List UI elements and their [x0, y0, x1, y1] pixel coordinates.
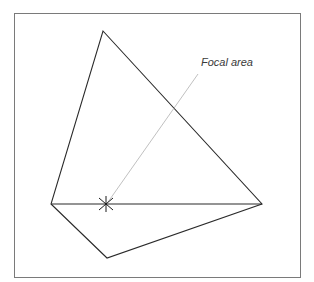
leader-line — [108, 74, 198, 202]
focal-area-label: Focal area — [201, 57, 253, 68]
diagram-frame — [15, 14, 301, 278]
diagram-canvas — [0, 0, 314, 282]
